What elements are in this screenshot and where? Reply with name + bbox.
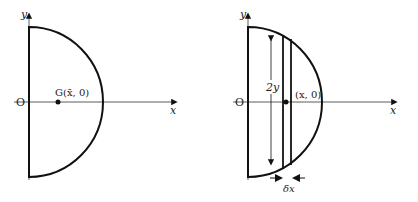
y-axis-label: y — [239, 8, 247, 21]
origin-label: O — [16, 96, 25, 109]
centroid-point — [56, 100, 61, 105]
strip-point — [284, 100, 289, 105]
left-diagram: y x O G(x̄, 0) — [14, 8, 177, 180]
diagram-root: y x O G(x̄, 0) 2y (x, 0) δx y x O — [0, 0, 418, 202]
x-axis-label: x — [170, 104, 177, 117]
width-label: δx — [283, 183, 295, 194]
centroid-label: G(x̄, 0) — [55, 87, 89, 98]
origin-label: O — [235, 96, 244, 109]
semicircle-centroid-diagrams: y x O G(x̄, 0) 2y (x, 0) δx y x O — [0, 0, 418, 202]
y-axis-label: y — [20, 8, 28, 21]
height-label: 2y — [265, 81, 280, 94]
x-axis-label: x — [390, 104, 397, 117]
point-label: (x, 0) — [295, 89, 321, 100]
right-diagram: 2y (x, 0) δx y x O — [233, 8, 397, 194]
